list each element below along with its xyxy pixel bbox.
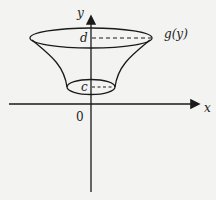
upper-bound-label: d xyxy=(80,31,88,45)
lower-bound-label: c xyxy=(81,80,88,94)
origin-label: 0 xyxy=(76,110,84,124)
diagram-canvas: y x 0 d c g(y) xyxy=(0,0,216,200)
curve-label: g(y) xyxy=(164,27,188,41)
x-axis-label: x xyxy=(204,101,211,115)
diagram-svg: y x 0 d c g(y) xyxy=(0,0,216,200)
y-axis-label: y xyxy=(76,6,84,20)
